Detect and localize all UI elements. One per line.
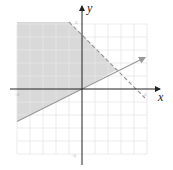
y-axis-label: y [86, 1, 93, 15]
tick-label-y-min: -5 [72, 153, 77, 158]
tick-label-x-min: -5 [15, 92, 20, 97]
coordinate-plane: x y 5 5 -5 -5 [0, 0, 173, 170]
x-axis-label: x [157, 90, 164, 104]
tick-label-x-max: 5 [144, 92, 147, 97]
